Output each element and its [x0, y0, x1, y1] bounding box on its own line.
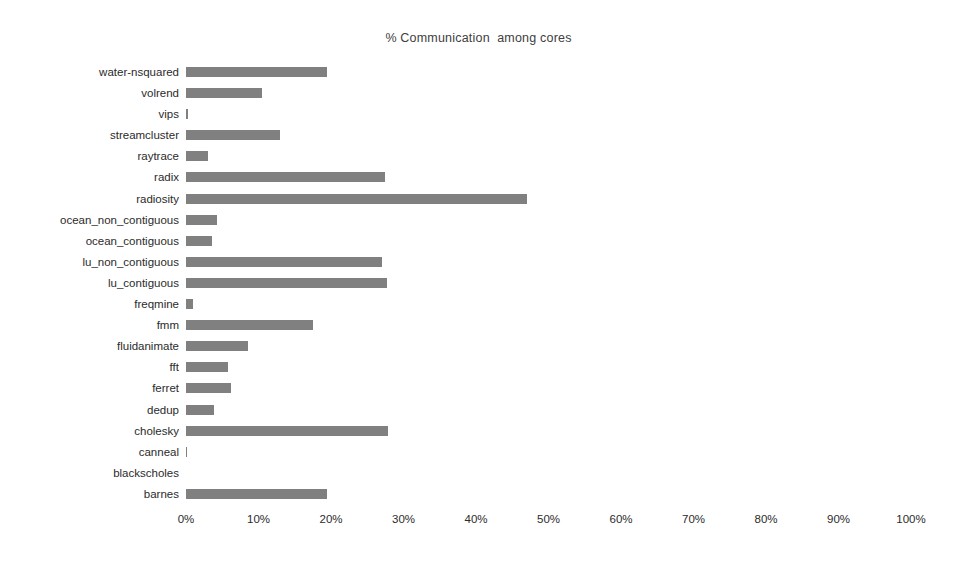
bar-raytrace: [186, 151, 208, 161]
y-axis-label-streamcluster: streamcluster: [0, 130, 179, 141]
y-axis-label-ferret: ferret: [0, 383, 179, 394]
bar-radiosity: [186, 194, 527, 204]
bar-cholesky: [186, 426, 388, 436]
bar-row: [186, 463, 911, 484]
bar-dedup: [186, 405, 214, 415]
bar-row: [186, 125, 911, 146]
y-axis-category-labels: water-nsquaredvolrendvipsstreamclusterra…: [0, 62, 179, 505]
bar-row: [186, 146, 911, 167]
x-axis-tick-60: 60%: [586, 513, 656, 525]
bar-row: [186, 83, 911, 104]
bar-row: [186, 378, 911, 399]
bar-water-nsquared: [186, 67, 327, 77]
x-axis-tick-90: 90%: [804, 513, 874, 525]
y-axis-label-vips: vips: [0, 109, 179, 120]
bar-barnes: [186, 489, 327, 499]
y-axis-label-cholesky: cholesky: [0, 426, 179, 437]
y-axis-label-raytrace: raytrace: [0, 151, 179, 162]
bar-fmm: [186, 320, 313, 330]
plot-area: [186, 62, 911, 505]
bar-canneal: [186, 447, 187, 457]
x-axis-tick-50: 50%: [514, 513, 584, 525]
bar-row: [186, 421, 911, 442]
y-axis-label-freqmine: freqmine: [0, 299, 179, 310]
y-axis-label-water-nsquared: water-nsquared: [0, 67, 179, 78]
bar-ocean_contiguous: [186, 236, 212, 246]
bar-row: [186, 210, 911, 231]
x-axis-tick-10: 10%: [224, 513, 294, 525]
bar-fluidanimate: [186, 341, 248, 351]
bar-streamcluster: [186, 130, 280, 140]
x-axis-tick-40: 40%: [441, 513, 511, 525]
bar-volrend: [186, 88, 262, 98]
bar-lu_contiguous: [186, 278, 387, 288]
communication-bar-chart: % Communication among cores water-nsquar…: [0, 0, 957, 565]
bar-freqmine: [186, 299, 193, 309]
y-axis-label-canneal: canneal: [0, 447, 179, 458]
x-axis-tick-30: 30%: [369, 513, 439, 525]
x-axis-tick-100: 100%: [876, 513, 946, 525]
bar-row: [186, 400, 911, 421]
bar-row: [186, 62, 911, 83]
bar-ocean_non_contiguous: [186, 215, 217, 225]
bar-row: [186, 484, 911, 505]
bar-row: [186, 167, 911, 188]
y-axis-label-ocean_non_contiguous: ocean_non_contiguous: [0, 215, 179, 226]
y-axis-label-ocean_contiguous: ocean_contiguous: [0, 236, 179, 247]
x-axis-tick-labels: 0%10%20%30%40%50%60%70%80%90%100%: [0, 513, 957, 533]
y-axis-label-radiosity: radiosity: [0, 194, 179, 205]
x-axis-tick-80: 80%: [731, 513, 801, 525]
bar-lu_non_contiguous: [186, 257, 382, 267]
bar-row: [186, 273, 911, 294]
y-axis-label-fft: fft: [0, 362, 179, 373]
y-axis-label-fmm: fmm: [0, 320, 179, 331]
y-axis-label-radix: radix: [0, 172, 179, 183]
bar-row: [186, 189, 911, 210]
y-axis-label-lu_non_contiguous: lu_non_contiguous: [0, 257, 179, 268]
y-axis-label-volrend: volrend: [0, 88, 179, 99]
bar-row: [186, 104, 911, 125]
bar-fft: [186, 362, 228, 372]
bar-row: [186, 294, 911, 315]
y-axis-label-dedup: dedup: [0, 405, 179, 416]
y-axis-label-fluidanimate: fluidanimate: [0, 341, 179, 352]
chart-title: % Communication among cores: [0, 31, 957, 45]
x-axis-tick-70: 70%: [659, 513, 729, 525]
y-axis-label-blackscholes: blackscholes: [0, 468, 179, 479]
bar-row: [186, 357, 911, 378]
bar-row: [186, 315, 911, 336]
x-axis-tick-0: 0%: [151, 513, 221, 525]
bar-row: [186, 442, 911, 463]
bar-vips: [186, 109, 188, 119]
x-axis-tick-20: 20%: [296, 513, 366, 525]
bar-row: [186, 252, 911, 273]
bar-row: [186, 336, 911, 357]
bar-ferret: [186, 383, 231, 393]
bar-radix: [186, 172, 385, 182]
y-axis-label-barnes: barnes: [0, 489, 179, 500]
bar-row: [186, 231, 911, 252]
y-axis-label-lu_contiguous: lu_contiguous: [0, 278, 179, 289]
